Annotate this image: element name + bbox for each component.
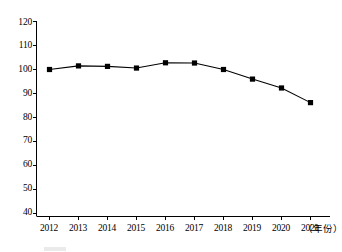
data-point-2014 [105,64,110,69]
data-point-2016 [163,60,168,65]
data-point-2013 [76,63,81,68]
data-point-2021 [308,100,313,105]
cropped-legend-artifact [44,247,66,251]
data-point-2015 [134,65,139,70]
data-series-line [50,63,311,103]
data-point-2017 [192,60,197,65]
data-point-2019 [250,77,255,82]
data-point-2020 [279,85,284,90]
line-chart: 120 110 100 90 80 70 60 50 40 2012 2013 … [0,0,342,252]
data-point-2012 [47,67,52,72]
data-point-2018 [221,67,226,72]
x-axis-ticks [50,217,311,221]
plot-area [0,0,342,252]
y-axis-ticks [33,22,37,214]
data-series-markers [47,60,313,105]
